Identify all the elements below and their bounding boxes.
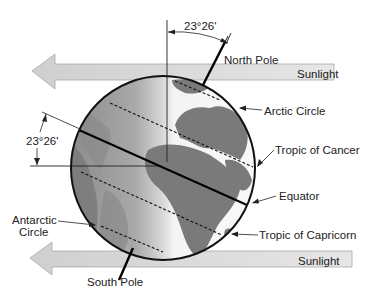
diagram-canvas: 23°26' 23°26' Sunlight Sunlight North Po… <box>0 0 372 302</box>
tilt-angle-label-top: 23°26' <box>184 20 216 32</box>
arctic-circle-label: Arctic Circle <box>264 105 325 117</box>
north-pole-label: North Pole <box>224 54 278 66</box>
earth-globe <box>30 20 255 262</box>
antarctic-circle-label-line1: Antarctic <box>12 214 57 226</box>
arctic-circle-callout: Arctic Circle <box>239 105 325 117</box>
tropic-of-cancer-label: Tropic of Cancer <box>275 144 360 156</box>
tilt-angle-label-left: 23°26' <box>26 135 58 147</box>
tropic-of-capricorn-label: Tropic of Capricorn <box>259 229 356 241</box>
earth-tilt-diagram: 23°26' 23°26' Sunlight Sunlight North Po… <box>0 0 372 302</box>
equator-callout: Equator <box>252 190 319 204</box>
sunlight-label-top: Sunlight <box>297 68 339 80</box>
antarctic-circle-callout: Antarctic Circle <box>12 214 96 238</box>
equator-label: Equator <box>279 190 319 202</box>
tropic-of-cancer-callout: Tropic of Cancer <box>257 144 360 167</box>
tilt-angle-top: 23°26' <box>168 20 228 43</box>
sunlight-label-bottom: Sunlight <box>298 255 340 267</box>
south-pole-label: South Pole <box>87 276 143 288</box>
tropic-of-capricorn-callout: Tropic of Capricorn <box>231 229 356 241</box>
antarctic-circle-label-line2: Circle <box>19 226 48 238</box>
